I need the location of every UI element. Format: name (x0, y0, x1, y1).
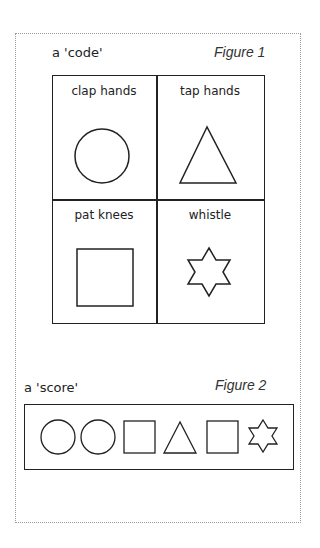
figure2-title: a 'score' (24, 380, 78, 395)
cell-label-clap-hands: clap hands (52, 84, 156, 98)
score-square-icon (122, 419, 158, 455)
star-icon (182, 245, 240, 303)
square-icon (74, 246, 136, 308)
score-square-icon (205, 419, 241, 455)
score-circle-icon (79, 418, 117, 456)
cell-label-whistle: whistle (158, 208, 262, 222)
cell-label-pat-knees: pat knees (52, 208, 156, 222)
triangle-icon (176, 124, 240, 188)
figure2-caption: Figure 2 (215, 377, 266, 393)
score-triangle-icon (162, 420, 200, 456)
circle-icon (72, 126, 134, 188)
figure1-caption: Figure 1 (214, 44, 265, 60)
cell-label-tap-hands: tap hands (158, 84, 262, 98)
score-star-icon (247, 418, 283, 456)
figure1-title: a 'code' (52, 45, 103, 60)
score-circle-icon (39, 418, 77, 456)
grid-divider-horizontal (52, 199, 265, 201)
